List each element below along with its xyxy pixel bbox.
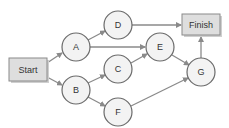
edge-c-e	[131, 54, 147, 63]
edge-start-b	[47, 77, 62, 85]
node-g: G	[187, 58, 215, 86]
edge-a-d	[88, 31, 105, 40]
node-c-label: C	[115, 64, 122, 74]
node-b: B	[62, 76, 90, 104]
node-finish-label: Finish	[189, 20, 213, 30]
node-start-label: Start	[18, 65, 38, 75]
edge-e-g	[172, 55, 189, 65]
node-a-label: A	[73, 42, 79, 52]
node-d: D	[104, 11, 132, 39]
node-finish: Finish	[182, 14, 222, 37]
edge-b-f	[88, 97, 105, 106]
node-start: Start	[9, 58, 49, 83]
network-diagram: Start Finish A B D C F E G	[0, 0, 229, 128]
node-c: C	[104, 55, 132, 83]
edge-f-g	[131, 78, 188, 106]
edge-start-a	[47, 53, 62, 63]
node-e: E	[146, 33, 174, 61]
node-g-label: G	[197, 67, 204, 77]
node-b-label: B	[73, 85, 79, 95]
edge-b-c	[88, 75, 105, 83]
node-f: F	[104, 98, 132, 126]
node-f-label: F	[115, 107, 121, 117]
node-a: A	[62, 33, 90, 61]
node-e-label: E	[157, 42, 163, 52]
node-d-label: D	[115, 20, 122, 30]
